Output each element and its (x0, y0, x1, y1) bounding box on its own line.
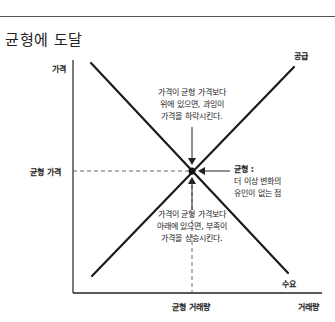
surplus-annotation: 가격이 균형 가격보다 위에 있으면, 과잉이 가격을 하락시킨다. (142, 87, 242, 123)
equilibrium-quantity-label: 균형 거래량 (172, 301, 210, 312)
supply-label: 공급 (294, 50, 308, 61)
arrow-left-icon (198, 167, 230, 175)
shortage-annotation: 가격이 균형 가격보다 아래에 있으면, 부족이 가격을 상승시킨다. (142, 209, 242, 245)
equilibrium-price-label: 균형 가격 (30, 166, 61, 177)
demand-label: 수요 (282, 278, 296, 289)
arrow-down-icon (188, 127, 196, 165)
x-axis-label: 거래량 (298, 301, 319, 312)
y-axis-label: 가격 (52, 63, 66, 74)
equilibrium-point (189, 168, 196, 175)
equilibrium-annotation: 균형 : 더 이상 변화의 유인이 없는 점 (234, 164, 281, 200)
arrow-up-icon (188, 177, 196, 210)
supply-demand-diagram (0, 0, 335, 322)
